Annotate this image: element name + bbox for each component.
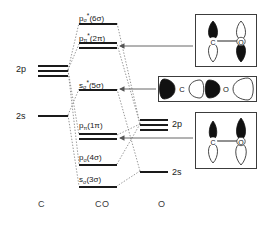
axis-label-left-atom: C [38,199,45,209]
correlation-line-o-2s-to-mo-5sigma-star [117,89,140,171]
c-2p-line-2 [38,75,68,77]
o-2p-line-2 [140,129,168,131]
c-2s-label: 2s [16,111,26,121]
c-2p-label: 2p [16,64,26,74]
correlation-line-o-2s-to-mo-3sigma [117,171,140,186]
orbital-box-pi-antibonding: C O [195,14,257,67]
mo-4sigma-label: pσ(4σ) [79,153,102,165]
o-2s-label: 2s [172,167,182,177]
correlation-line-o-2p-to-mo-2pi-star [117,44,140,124]
correlation-line-c-2p-to-mo-1pi [68,70,79,135]
atom-label-o: O [238,39,244,46]
correlation-line-c-2p-to-mo-6sigma-star [68,23,79,70]
pi-antibonding-orbital-drawing: C O [196,15,256,66]
correlation-line-c-2s-to-mo-5sigma-star [68,89,79,115]
mo-2pi-star-label: pπ*(2π) [79,31,105,45]
atom-label-c: C [210,139,215,146]
correlation-line-o-2p-to-mo-4sigma [117,124,140,164]
mo-1pi-label: pπ(1π) [79,121,103,133]
c-2p-line-1 [38,70,68,72]
mo-6sigma-star-label: pσ*(6σ) [79,11,104,25]
correlation-line-c-2p-to-mo-4sigma [68,70,79,164]
mo-5sigma-star-label: sσ*(5σ) [79,78,104,92]
atom-label-c: C [179,85,185,94]
atom-label-o: O [238,139,244,146]
correlation-line-c-2s-to-mo-3sigma [68,115,79,186]
axis-label-right-atom: O [158,199,166,209]
o-2s-line-0 [140,171,168,173]
correlation-line-c-2p-to-mo-2pi-star [68,44,79,70]
o-2p-line-0 [140,119,168,121]
c-2s-line-0 [38,115,68,117]
mo-2pi-star-line-1 [79,47,117,49]
correlation-line-o-2p-to-mo-6sigma-star [117,23,140,124]
c-2p-line-0 [38,65,68,67]
atom-label-o: O [223,85,229,94]
correlation-line-o-2p-to-mo-1pi [117,124,140,135]
mo-1pi-line-1 [79,138,117,140]
mo-3sigma-label: sσ(3σ) [79,175,101,187]
o-2p-label: 2p [172,119,182,129]
sigma-antibonding-orbital-drawing: C O [159,77,256,101]
pi-bonding-orbital-drawing: C O [196,113,256,168]
orbital-box-sigma-antibonding: C O [158,76,257,102]
axis-label-molecule: CO [95,199,110,209]
mo-diagram-canvas: 2p2s2p2spσ*(6σ)pπ*(2π)sσ*(5σ)pπ(1π)pσ(4σ… [0,0,265,226]
orbital-box-pi-bonding: C O [195,112,257,169]
atom-label-c: C [210,39,215,46]
mo-1pi-line-0 [79,133,117,135]
o-2p-line-1 [140,124,168,126]
